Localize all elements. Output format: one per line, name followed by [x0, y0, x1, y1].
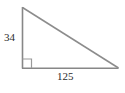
hypotenuse-line	[23, 8, 119, 69]
right-triangle-figure: 34 125	[0, 0, 125, 93]
horizontal-leg-label: 125	[57, 71, 74, 82]
right-angle-square-icon	[23, 59, 32, 68]
vertical-leg-label: 34	[4, 32, 15, 43]
